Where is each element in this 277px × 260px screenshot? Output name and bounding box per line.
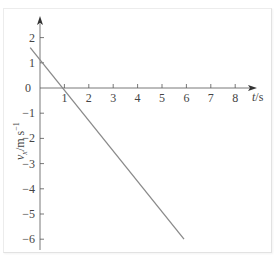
origin-label: 0 <box>25 81 31 95</box>
x-tick-label: 1 <box>61 91 67 105</box>
velocity-time-chart: 1234567821−1−2−3−4−5−6 0 t/s vx/m s−1 <box>0 0 277 260</box>
y-tick-label: 2 <box>29 31 35 45</box>
svg-text:vx/m s−1: vx/m s−1 <box>12 122 29 160</box>
y-tick-label: −4 <box>22 182 35 196</box>
x-tick-label: 5 <box>159 91 165 105</box>
tick-labels: 1234567821−1−2−3−4−5−6 <box>22 31 238 247</box>
x-tick-label: 6 <box>183 91 189 105</box>
x-axis-title: t/s <box>252 90 264 104</box>
y-tick-label: 1 <box>29 56 35 70</box>
axes <box>37 16 257 250</box>
x-tick-label: 3 <box>110 91 116 105</box>
x-tick-label: 4 <box>135 91 141 105</box>
y-tick-label: −6 <box>22 232 35 246</box>
velocity-line <box>30 48 184 240</box>
x-tick-label: 8 <box>232 91 238 105</box>
data-series <box>30 48 184 240</box>
y-tick-label: −5 <box>22 207 35 221</box>
x-tick-label: 7 <box>208 91 214 105</box>
y-axis-title: vx/m s−1 <box>12 122 29 160</box>
y-tick-label: −1 <box>22 106 35 120</box>
ticks <box>40 38 235 240</box>
y-axis-arrow-icon <box>37 16 43 25</box>
x-tick-label: 2 <box>86 91 92 105</box>
